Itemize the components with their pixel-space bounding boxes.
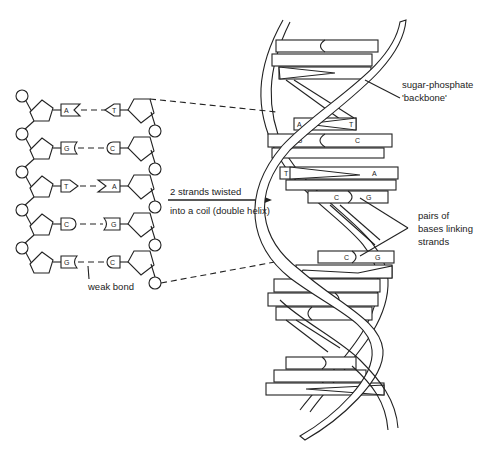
base-T: T: [112, 107, 117, 114]
helix-base-G: G: [366, 194, 371, 201]
label-backbone-line1: sugar-phosphate: [402, 78, 473, 91]
base-C: C: [64, 221, 69, 228]
helix-base-C: C: [355, 137, 360, 144]
zoom-line-top: [150, 99, 277, 112]
helix-base-G: G: [375, 254, 380, 261]
base-A: A: [64, 107, 69, 114]
base-G: G: [64, 259, 69, 266]
base-G: G: [111, 221, 116, 228]
weak-bond-pointer: [88, 266, 89, 279]
base-T: T: [64, 183, 69, 190]
helix-base-C: C: [334, 194, 339, 201]
backbone-pointer: [365, 80, 400, 98]
label-pairs-line1: pairs of: [418, 209, 473, 222]
pairs-pointer: [360, 198, 408, 256]
right-bases: T C A G C: [98, 104, 128, 268]
left-backbone: [16, 90, 53, 273]
helix-base-C: C: [344, 254, 349, 261]
label-arrow-bottom: into a coil (double helix): [170, 204, 270, 217]
flat-dna-strand: A G T C G: [16, 90, 161, 289]
label-pairs-line2: bases linking: [418, 222, 473, 235]
helix-base-T: T: [284, 170, 289, 177]
dna-diagram: A G T C G: [0, 0, 492, 452]
zoom-line-bottom: [161, 262, 275, 283]
helix-base-T: T: [349, 121, 354, 128]
base-C: C: [110, 259, 115, 266]
label-pairs-line3: strands: [418, 235, 473, 248]
double-helix: A T G C T A C G C G: [255, 20, 406, 440]
label-arrow-top: 2 strands twisted: [170, 185, 241, 198]
base-A: A: [112, 183, 117, 190]
label-backbone: sugar-phosphate 'backbone': [402, 78, 473, 104]
label-backbone-line2: 'backbone': [402, 91, 473, 104]
label-base-pairs: pairs of bases linking strands: [418, 209, 473, 248]
left-bases: A G T C G: [53, 104, 80, 268]
helix-base-A: A: [372, 170, 377, 177]
right-backbone: [128, 99, 161, 289]
base-G: G: [64, 145, 69, 152]
base-C: C: [110, 145, 115, 152]
label-weak-bond: weak bond: [88, 280, 134, 293]
weak-bonds: [78, 110, 106, 262]
